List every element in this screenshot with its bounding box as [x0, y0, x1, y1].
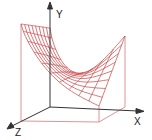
z-axis-arrow-icon — [7, 123, 14, 130]
x-axis-arrow-icon — [136, 109, 144, 114]
mesh-line — [32, 26, 109, 83]
surface-mesh — [21, 24, 125, 106]
z-axis-label: Z — [15, 128, 21, 138]
y-axis-label: Y — [56, 10, 63, 20]
x-axis-label: X — [134, 117, 141, 127]
mesh-line — [79, 61, 103, 96]
axes — [7, 2, 144, 129]
mesh-line — [46, 28, 121, 74]
saddle-surface-plot — [0, 0, 152, 140]
z-axis — [12, 107, 50, 126]
mesh-line — [36, 26, 113, 79]
mesh-line — [25, 25, 103, 98]
x-axis — [50, 107, 138, 111]
y-axis-arrow-icon — [48, 2, 53, 9]
